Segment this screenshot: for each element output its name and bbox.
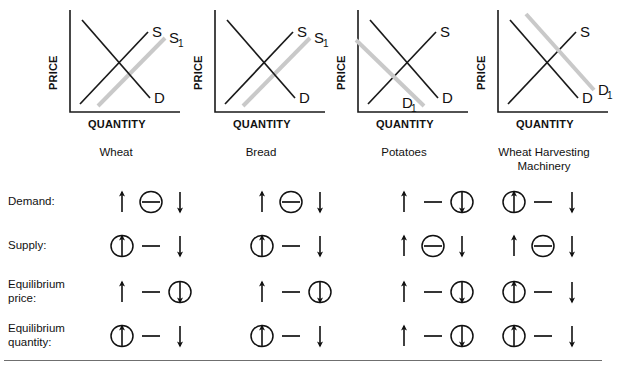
answer-option-up-equilibrium-price-wheat[interactable] bbox=[109, 277, 135, 307]
answer-option-down-equilibrium-quantity-wheat-harvesting-machinery[interactable] bbox=[559, 321, 585, 351]
answer-option-down-equilibrium-price-wheat-harvesting-machinery[interactable] bbox=[559, 277, 585, 307]
answer-option-no-change-equilibrium-quantity-potatoes[interactable] bbox=[420, 321, 446, 351]
table-row: Demand: bbox=[0, 180, 607, 224]
row-label-line-1: Equilibrium bbox=[8, 322, 86, 336]
row-cells bbox=[86, 224, 607, 268]
curve-label-d: D bbox=[582, 89, 593, 106]
curve-label-s: S bbox=[152, 23, 162, 40]
answer-cell-supply-wheat bbox=[86, 224, 216, 268]
answer-option-down-supply-bread[interactable] bbox=[307, 231, 333, 261]
answer-cell-supply-wheat-harvesting-machinery bbox=[478, 224, 608, 268]
answer-cell-demand-wheat-harvesting-machinery bbox=[478, 180, 608, 224]
answer-cell-equilibrium-price-wheat bbox=[86, 270, 216, 314]
answer-cell-equilibrium-quantity-wheat bbox=[86, 314, 216, 358]
answer-option-no-change-equilibrium-quantity-bread[interactable] bbox=[278, 321, 304, 351]
table-row: Supply: bbox=[0, 224, 607, 268]
curve-s-wheat-harvesting-machinery bbox=[508, 32, 576, 104]
curve-label-d: D bbox=[154, 89, 165, 106]
y-axis-label: PRICE bbox=[47, 55, 59, 90]
answer-cell-demand-wheat bbox=[86, 180, 216, 224]
answer-cell-equilibrium-price-wheat-harvesting-machinery bbox=[478, 270, 608, 314]
answer-option-up-equilibrium-price-wheat-harvesting-machinery[interactable] bbox=[501, 277, 527, 307]
answer-option-down-demand-wheat[interactable] bbox=[167, 187, 193, 217]
curve-d1-potatoes bbox=[356, 40, 424, 106]
answer-option-down-equilibrium-quantity-bread[interactable] bbox=[307, 321, 333, 351]
answer-option-up-equilibrium-quantity-wheat-harvesting-machinery[interactable] bbox=[501, 321, 527, 351]
answer-option-up-demand-potatoes[interactable] bbox=[391, 187, 417, 217]
curve-label-s: S bbox=[440, 23, 450, 40]
answer-option-up-equilibrium-quantity-potatoes[interactable] bbox=[391, 321, 417, 351]
curve-label-subscript-d1: 1 bbox=[411, 103, 417, 114]
answer-option-down-supply-potatoes[interactable] bbox=[449, 231, 475, 261]
column-captions: WheatBreadPotatoesWheat HarvestingMachin… bbox=[0, 146, 607, 180]
row-label-line-2: quantity: bbox=[8, 336, 86, 350]
answer-option-down-equilibrium-price-bread[interactable] bbox=[307, 277, 333, 307]
answer-option-up-supply-wheat[interactable] bbox=[109, 231, 135, 261]
answer-cell-demand-bread bbox=[226, 180, 356, 224]
answer-option-down-demand-wheat-harvesting-machinery[interactable] bbox=[559, 187, 585, 217]
x-axis-label: QUANTITY bbox=[88, 118, 146, 130]
answer-table: Demand:Supply:Equilibriumprice:Equilibri… bbox=[0, 180, 607, 358]
answer-option-down-equilibrium-price-potatoes[interactable] bbox=[449, 277, 475, 307]
row-cells bbox=[86, 314, 607, 358]
graph-bread: PRICEQUANTITYSS1D bbox=[185, 2, 337, 140]
answer-cell-equilibrium-quantity-wheat-harvesting-machinery bbox=[478, 314, 608, 358]
answer-option-no-change-supply-bread[interactable] bbox=[278, 231, 304, 261]
column-caption-bread: Bread bbox=[185, 146, 337, 160]
table-row: Equilibriumquantity: bbox=[0, 314, 607, 358]
answer-option-down-supply-wheat[interactable] bbox=[167, 231, 193, 261]
answer-option-down-demand-bread[interactable] bbox=[307, 187, 333, 217]
answer-option-up-demand-wheat-harvesting-machinery[interactable] bbox=[501, 187, 527, 217]
answer-option-no-change-equilibrium-price-wheat-harvesting-machinery[interactable] bbox=[530, 277, 556, 307]
answer-option-up-demand-bread[interactable] bbox=[249, 187, 275, 217]
answer-option-up-equilibrium-quantity-bread[interactable] bbox=[249, 321, 275, 351]
answer-option-no-change-demand-bread[interactable] bbox=[278, 187, 304, 217]
answer-option-down-equilibrium-quantity-wheat[interactable] bbox=[167, 321, 193, 351]
caption-line-2: Machinery bbox=[468, 160, 617, 174]
answer-option-up-supply-wheat-harvesting-machinery[interactable] bbox=[501, 231, 527, 261]
curve-label-s: S bbox=[297, 23, 307, 40]
row-label-demand: Demand: bbox=[8, 195, 86, 209]
row-cells bbox=[86, 270, 607, 314]
answer-option-down-equilibrium-quantity-potatoes[interactable] bbox=[449, 321, 475, 351]
answer-option-no-change-equilibrium-quantity-wheat-harvesting-machinery[interactable] bbox=[530, 321, 556, 351]
y-axis-label: PRICE bbox=[335, 55, 347, 90]
answer-option-no-change-equilibrium-price-potatoes[interactable] bbox=[420, 277, 446, 307]
answer-option-no-change-supply-potatoes[interactable] bbox=[420, 231, 446, 261]
row-label-equilibrium-quantity: Equilibriumquantity: bbox=[8, 322, 86, 349]
answer-option-up-equilibrium-price-bread[interactable] bbox=[249, 277, 275, 307]
answer-cell-equilibrium-quantity-bread bbox=[226, 314, 356, 358]
answer-option-up-supply-bread[interactable] bbox=[249, 231, 275, 261]
answer-option-no-change-supply-wheat-harvesting-machinery[interactable] bbox=[530, 231, 556, 261]
answer-option-no-change-equilibrium-quantity-wheat[interactable] bbox=[138, 321, 164, 351]
answer-option-no-change-demand-wheat-harvesting-machinery[interactable] bbox=[530, 187, 556, 217]
answer-option-no-change-supply-wheat[interactable] bbox=[138, 231, 164, 261]
answer-option-no-change-demand-potatoes[interactable] bbox=[420, 187, 446, 217]
row-label-line-1: Equilibrium bbox=[8, 278, 86, 292]
curve-label-d: D bbox=[299, 89, 310, 106]
answer-option-up-supply-potatoes[interactable] bbox=[391, 231, 417, 261]
x-axis-label: QUANTITY bbox=[376, 118, 434, 130]
answer-option-down-supply-wheat-harvesting-machinery[interactable] bbox=[559, 231, 585, 261]
curve-label-d: D bbox=[442, 89, 453, 106]
answer-option-no-change-demand-wheat[interactable] bbox=[138, 187, 164, 217]
answer-cell-equilibrium-price-bread bbox=[226, 270, 356, 314]
curve-label-subscript-s1: 1 bbox=[178, 38, 184, 49]
row-label-equilibrium-price: Equilibriumprice: bbox=[8, 278, 86, 305]
row-cells bbox=[86, 180, 607, 224]
answer-option-no-change-equilibrium-price-wheat[interactable] bbox=[138, 277, 164, 307]
answer-option-up-equilibrium-price-potatoes[interactable] bbox=[391, 277, 417, 307]
curve-label-s: S bbox=[580, 23, 590, 40]
column-caption-wheat: Wheat bbox=[40, 146, 192, 160]
table-row: Equilibriumprice: bbox=[0, 270, 607, 314]
y-axis-label: PRICE bbox=[475, 55, 487, 90]
graph-potatoes: PRICEQUANTITYSDD1 bbox=[328, 2, 480, 140]
answer-option-up-demand-wheat[interactable] bbox=[109, 187, 135, 217]
answer-option-no-change-equilibrium-price-bread[interactable] bbox=[278, 277, 304, 307]
graph-wheat-harvesting-machinery: PRICEQUANTITYSDD1 bbox=[468, 2, 617, 140]
answer-option-up-equilibrium-quantity-wheat[interactable] bbox=[109, 321, 135, 351]
y-axis-label: PRICE bbox=[192, 55, 204, 90]
answer-option-down-equilibrium-price-wheat[interactable] bbox=[167, 277, 193, 307]
answer-option-down-demand-potatoes[interactable] bbox=[449, 187, 475, 217]
